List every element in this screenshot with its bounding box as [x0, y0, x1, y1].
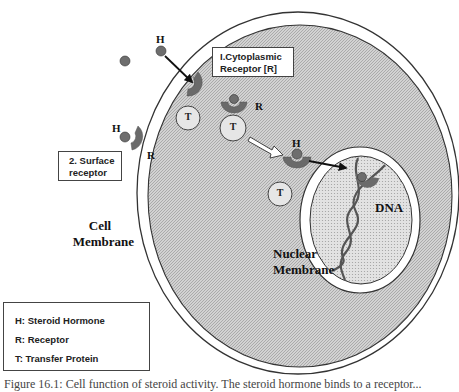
transfer-protein-3-label: T	[274, 187, 286, 198]
receptor-surface-label: R	[147, 149, 155, 161]
hormone-surface-label: H	[112, 122, 121, 134]
nuclear-complex-hormone-icon	[292, 149, 302, 159]
hormone-top-icon	[156, 46, 166, 56]
callout-line-2: Receptor [R]	[220, 63, 293, 75]
legend-item-receptor: R: Receptor	[15, 330, 149, 349]
label-line-1: Nuclear	[273, 246, 334, 262]
cytoplasm-complex-hormone-icon	[230, 95, 239, 104]
hormone-top-label: H	[156, 33, 165, 45]
transfer-protein-2-label: T	[227, 121, 239, 132]
callout-line-1: 2. Surface	[69, 155, 121, 167]
surface-receptor-callout: 2. Surface receptor	[58, 151, 122, 181]
callout-line-2: receptor	[69, 167, 121, 179]
callout-line-1: I.Cytoplasmic	[220, 51, 293, 63]
hormone-surface-icon	[120, 132, 130, 142]
hormone-on-dna-icon	[358, 173, 367, 182]
dna-label: DNA	[375, 200, 403, 216]
transfer-protein-1-label: T	[182, 111, 194, 122]
hormone-nuclear-label: H	[292, 137, 301, 149]
figure-caption: Figure 16.1: Cell function of steroid ac…	[4, 377, 459, 392]
label-line-2: Membrane	[66, 234, 134, 250]
nuclear-membrane-label: Nuclear Membrane	[273, 246, 334, 278]
surface-receptor-icon	[131, 126, 143, 150]
legend-item-transfer-protein: T: Transfer Protein	[15, 349, 149, 368]
label-line-2: Membrane	[273, 262, 334, 278]
free-hormone-icon	[120, 56, 130, 66]
cell-membrane-label: Cell Membrane	[66, 218, 134, 250]
legend: H: Steroid Hormone R: Receptor T: Transf…	[3, 302, 150, 371]
cytoplasmic-receptor-callout: I.Cytoplasmic Receptor [R]	[212, 47, 294, 77]
receptor-cytoplasm-label: R	[255, 100, 263, 112]
label-line-1: Cell	[66, 218, 134, 234]
legend-item-hormone: H: Steroid Hormone	[15, 311, 149, 330]
